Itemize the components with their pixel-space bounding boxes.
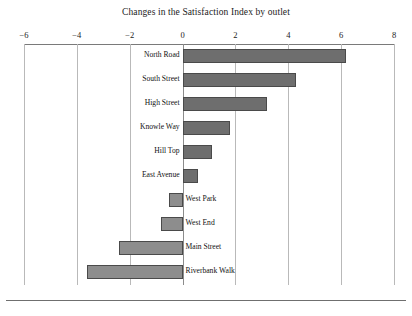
bar-row: North Road [24,46,394,67]
x-tick-label: −4 [72,30,81,40]
bar-row: East Avenue [24,166,394,187]
bar [169,193,182,207]
bar-category-label: North Road [144,50,183,59]
x-tick-label: 6 [339,30,343,40]
x-tick-label: 8 [392,30,396,40]
bar-category-label: East Avenue [142,170,183,179]
bar-row: West Park [24,190,394,211]
bar-row: High Street [24,94,394,115]
bar-row: Main Street [24,238,394,259]
bar [183,73,297,87]
bar [183,169,199,183]
bar-category-label: West End [183,218,215,227]
x-tick-label: −2 [125,30,134,40]
bar-row: Hill Top [24,142,394,163]
gridline [394,44,395,285]
bar [87,265,182,279]
x-tick-label: 2 [233,30,237,40]
x-tick-label: −6 [19,30,28,40]
bar-category-label: South Street [142,74,182,83]
x-tick-label: 0 [180,30,184,40]
bar [161,217,182,231]
bar-row: West End [24,214,394,235]
bar [183,145,212,159]
bar [119,241,182,255]
plot-area: −6−4−202468 North RoadSouth StreetHigh S… [24,44,394,285]
bar-category-label: Knowle Way [140,122,183,131]
bar-category-label: Hill Top [154,146,182,155]
bar-row: South Street [24,70,394,91]
bar-row: Knowle Way [24,118,394,139]
bar-category-label: High Street [145,98,183,107]
chart-container: Changes in the Satisfaction Index by out… [0,0,412,316]
bar [183,97,268,111]
bottom-rule [6,300,406,301]
bar-row: Riverbank Walk [24,262,394,283]
chart-title: Changes in the Satisfaction Index by out… [0,7,412,17]
x-tick-label: 4 [286,30,290,40]
bar-category-label: West Park [183,194,217,203]
bar-category-label: Riverbank Walk [183,266,235,275]
bar [183,49,347,63]
bar [183,121,231,135]
bar-category-label: Main Street [183,242,222,251]
